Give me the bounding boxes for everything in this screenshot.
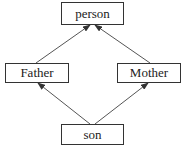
node-label: person xyxy=(75,6,110,22)
node-label: Father xyxy=(20,65,53,81)
node-son: son xyxy=(61,124,124,145)
edge-son-father xyxy=(38,83,90,124)
node-label: son xyxy=(83,127,101,143)
node-person: person xyxy=(61,2,124,25)
node-mother: Mother xyxy=(117,63,181,83)
edge-son-mother xyxy=(95,83,148,124)
edge-mother-person xyxy=(95,25,150,63)
node-label: Mother xyxy=(130,65,168,81)
edge-father-person xyxy=(36,25,90,63)
node-father: Father xyxy=(5,63,69,83)
